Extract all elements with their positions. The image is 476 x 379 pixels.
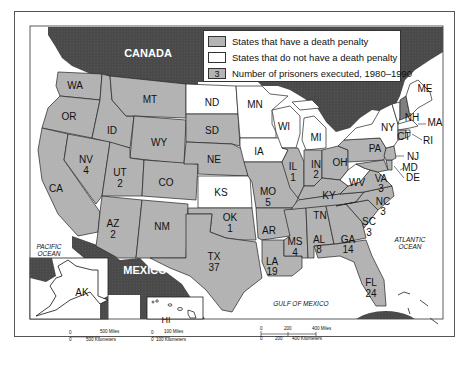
state-count-ok: 1 [227, 223, 233, 234]
pacific-ocean-label-2: OCEAN [37, 250, 60, 257]
legend-label-no-death-penalty: States that do not have a death penalty [232, 52, 397, 63]
state-label-ri: RI [423, 135, 433, 146]
state-label-ny: NY [381, 122, 395, 133]
state-label-ia: IA [254, 146, 264, 157]
state-count-il: 1 [290, 172, 296, 183]
svg-text:200: 200 [275, 336, 283, 341]
svg-text:0: 0 [69, 337, 72, 342]
atlantic-ocean-label-1: ATLANTIC [394, 236, 426, 243]
legend-row-executions: 3 Number of prisoners executed, 1980–199… [208, 66, 412, 80]
state-count-nv: 4 [83, 165, 89, 176]
state-count-la: 19 [266, 266, 278, 277]
state-label-mt: MT [143, 94, 157, 105]
state-label-or: OR [62, 111, 77, 122]
state-label-sc: SC [362, 216, 376, 227]
state-label-mo: MO [260, 186, 276, 197]
svg-text:0: 0 [260, 326, 263, 331]
state-label-il: IL [289, 161, 298, 172]
state-label-ct: CT [397, 131, 410, 142]
map-legend: States that have a death penalty States … [203, 30, 401, 82]
legend-row-no-death-penalty: States that do not have a death penalty [208, 50, 397, 64]
state-label-ks: KS [214, 187, 228, 198]
state-count-tx: 37 [208, 262, 220, 273]
svg-text:400 Kilometers: 400 Kilometers [292, 336, 323, 341]
state-label-ne: NE [207, 154, 221, 165]
legend-swatch-executions: 3 [208, 68, 226, 79]
state-count-al: 8 [316, 244, 322, 255]
state-label-nh: NH [405, 112, 419, 123]
state-label-nd: ND [205, 97, 219, 108]
state-label-ca: CA [49, 183, 63, 194]
state-label-wi: WI [278, 121, 290, 132]
hawaii-scale-bar: 0 100 Miles 0 100 Kilometers [151, 329, 187, 342]
state-label-az: AZ [107, 218, 120, 229]
state-count-ga: 14 [342, 244, 354, 255]
svg-text:100 Kilometers: 100 Kilometers [156, 337, 187, 342]
svg-text:200: 200 [284, 326, 292, 331]
state-count-az: 2 [110, 229, 116, 240]
legend-swatch-no-death-penalty [208, 52, 226, 63]
state-label-ms: MS [288, 236, 303, 247]
state-count-ms: 4 [292, 247, 298, 258]
legend-row-death-penalty: States that have a death penalty [208, 34, 368, 48]
state-label-nm: NM [154, 221, 170, 232]
svg-text:100 Miles: 100 Miles [164, 329, 184, 334]
state-label-de: DE [406, 172, 420, 183]
state-count-ut: 2 [117, 178, 123, 189]
state-label-me: ME [418, 83, 433, 94]
canada-label: CANADA [124, 47, 172, 59]
svg-text:500 Kilometers: 500 Kilometers [86, 337, 117, 342]
state-label-tx: TX [208, 251, 221, 262]
state-label-ar: AR [262, 225, 276, 236]
state-count-sc: 3 [366, 227, 372, 238]
state-label-hi: HI [162, 315, 171, 325]
legend-label-death-penalty: States that have a death penalty [232, 36, 368, 47]
state-label-ok: OK [223, 212, 238, 223]
state-label-wv: WV [349, 177, 365, 188]
state-label-ak: AK [75, 287, 89, 298]
state-count-mo: 5 [265, 197, 271, 208]
state-label-mi: MI [310, 132, 321, 143]
state-count-va: 3 [378, 183, 384, 194]
mexico-label: MEXICO [123, 264, 167, 276]
state-count-in: 2 [313, 169, 319, 180]
state-label-wy: WY [151, 137, 167, 148]
state-label-co: CO [159, 177, 174, 188]
alaska-scale-bar: 0 500 Miles 0 500 Kilometers [69, 329, 120, 342]
state-label-wa: WA [67, 80, 83, 91]
main-scale-bar: 0 200 400 Miles 0 200 400 Kilometers [260, 326, 332, 341]
state-count-nc: 3 [380, 206, 386, 217]
state-label-fl: FL [365, 277, 377, 288]
pacific-ocean-label-1: PACIFIC [36, 243, 61, 250]
svg-text:0: 0 [151, 337, 154, 342]
svg-text:500 Miles: 500 Miles [100, 329, 120, 334]
svg-text:0: 0 [69, 330, 72, 335]
state-label-nj: NJ [407, 151, 419, 162]
state-label-oh: OH [333, 157, 348, 168]
state-label-ut: UT [113, 167, 126, 178]
state-label-tn: TN [313, 210, 326, 221]
state-label-sd: SD [205, 125, 219, 136]
gulf-of-mexico-label: GULF OF MEXICO [273, 300, 328, 307]
atlantic-ocean-label-2: OCEAN [398, 243, 421, 250]
state-label-pa: PA [369, 143, 382, 154]
state-label-ma: MA [428, 117, 443, 128]
svg-text:400 Miles: 400 Miles [312, 326, 332, 331]
legend-label-executions: Number of prisoners executed, 1980–1990 [232, 68, 412, 79]
state-label-nv: NV [79, 154, 93, 165]
state-label-id: ID [107, 125, 117, 136]
svg-text:0: 0 [260, 336, 263, 341]
legend-swatch-death-penalty [208, 36, 226, 47]
svg-text:0: 0 [151, 330, 154, 335]
state-label-ky: KY [322, 190, 336, 201]
state-count-fl: 24 [365, 288, 377, 299]
state-label-mn: MN [247, 99, 263, 110]
